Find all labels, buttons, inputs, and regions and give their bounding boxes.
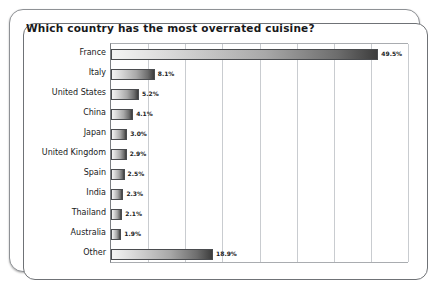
category-label: Spain <box>24 169 106 177</box>
bar-value-label: 3.0% <box>130 131 147 137</box>
bar-row: 8.1% <box>111 69 408 80</box>
bar-value-label: 1.9% <box>124 231 141 237</box>
bar <box>111 49 378 60</box>
category-label: United Kingdom <box>24 149 106 157</box>
category-label: Australia <box>24 229 106 237</box>
bar-value-label: 49.5% <box>381 51 402 57</box>
bar-value-label: 2.9% <box>130 151 147 157</box>
category-label: Thailand <box>24 209 106 217</box>
bar <box>111 169 125 180</box>
bar-row: 1.9% <box>111 229 408 240</box>
bar-row: 2.3% <box>111 189 408 200</box>
bar <box>111 109 133 120</box>
bar <box>111 69 155 80</box>
bar-row: 3.0% <box>111 129 408 140</box>
bar-value-label: 2.5% <box>128 171 145 177</box>
bar-row: 5.2% <box>111 89 408 100</box>
bar-row: 2.5% <box>111 169 408 180</box>
gridline <box>408 44 409 262</box>
chart-plot-area: FranceItalyUnited StatesChinaJapanUnited… <box>24 43 408 263</box>
bar <box>111 89 139 100</box>
bar-value-label: 4.1% <box>136 111 153 117</box>
category-label: India <box>24 189 106 197</box>
category-label: China <box>24 109 106 117</box>
bars-canvas: 49.5%8.1%5.2%4.1%3.0%2.9%2.5%2.3%2.1%1.9… <box>110 43 408 263</box>
bar <box>111 229 121 240</box>
bar-value-label: 18.9% <box>216 251 237 257</box>
category-label: Italy <box>24 69 106 77</box>
bar <box>111 189 123 200</box>
bar-value-label: 2.3% <box>126 191 143 197</box>
category-label-column: FranceItalyUnited StatesChinaJapanUnited… <box>24 43 106 263</box>
bar-value-label: 8.1% <box>158 71 175 77</box>
bar-row: 2.9% <box>111 149 408 160</box>
bar-row: 49.5% <box>111 49 408 60</box>
bar <box>111 149 127 160</box>
bar-row: 18.9% <box>111 249 408 260</box>
bar-row: 2.1% <box>111 209 408 220</box>
bar-value-label: 5.2% <box>142 91 159 97</box>
category-label: Japan <box>24 129 106 137</box>
bar-value-label: 2.1% <box>125 211 142 217</box>
chart-title: Which country has the most overrated cui… <box>26 22 315 34</box>
category-label: Other <box>24 249 106 257</box>
bar <box>111 209 122 220</box>
bar-row: 4.1% <box>111 109 408 120</box>
category-label: France <box>24 49 106 57</box>
bar <box>111 249 213 260</box>
bar <box>111 129 127 140</box>
category-label: United States <box>24 89 106 97</box>
